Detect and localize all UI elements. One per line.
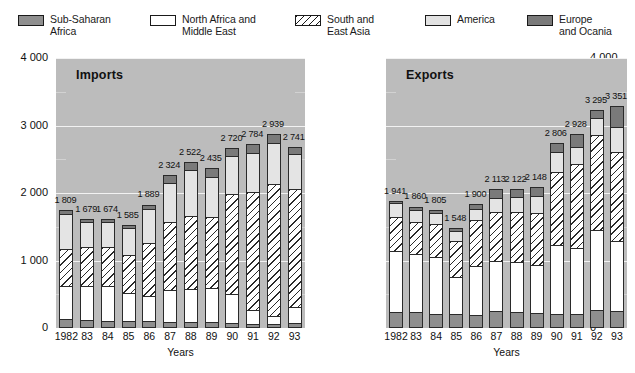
bar-segment-nam — [429, 257, 443, 315]
bar-segment-ame — [225, 156, 239, 194]
legend-item-europe-ocania: Europe and Ocania — [527, 14, 612, 37]
bar-total-label: 1 679 — [75, 204, 97, 214]
bar-exports-90 — [550, 143, 564, 328]
bar-segment-nam — [184, 289, 198, 323]
bar-total-label: 1 809 — [54, 195, 76, 205]
legend-swatch-south-east-asia — [295, 15, 321, 26]
bar-segment-sea — [59, 249, 73, 287]
bar-segment-sea — [389, 217, 403, 252]
gridline-major — [386, 58, 627, 59]
bar-segment-ssa — [489, 311, 503, 328]
bar-imports-91 — [246, 144, 260, 328]
bar-segment-nam — [163, 290, 177, 323]
bar-segment-nam — [610, 241, 624, 312]
bar-segment-eur — [610, 106, 624, 128]
bar-total-label: 1 585 — [117, 210, 139, 220]
bar-segment-ame — [550, 152, 564, 172]
bar-total-label: 2 113 — [484, 174, 505, 184]
bar-exports-1982 — [389, 201, 403, 328]
bar-imports-90 — [225, 148, 239, 328]
bar-segment-ame — [80, 222, 94, 248]
bar-segment-nam — [101, 286, 115, 322]
bar-total-label: 1 941 — [384, 186, 406, 196]
bar-segment-ssa — [80, 320, 94, 328]
bar-segment-sea — [246, 192, 260, 311]
bar-segment-sea — [122, 255, 136, 294]
bar-imports-92 — [267, 134, 281, 328]
bar-segment-nam — [288, 307, 302, 324]
legend-swatch-europe-ocania — [527, 15, 553, 26]
bar-total-label: 1 889 — [137, 189, 159, 199]
bar-segment-nam — [590, 230, 604, 311]
bar-segment-ssa — [389, 312, 403, 328]
bar-imports-89 — [205, 168, 219, 328]
bar-segment-ssa — [530, 313, 544, 328]
legend-label-south-east-asia: South and East Asia — [327, 14, 374, 37]
legend-swatch-north-africa-middle-east — [150, 15, 176, 26]
bar-segment-ssa — [101, 321, 115, 328]
bar-total-label: 2 435 — [200, 153, 222, 163]
gridline-minor — [386, 92, 396, 93]
legend-item-north-africa-middle-east: North Africa and Middle East — [150, 14, 256, 37]
bar-segment-ame — [122, 228, 136, 256]
bar-segment-sea — [510, 212, 524, 263]
bar-exports-83 — [409, 207, 423, 329]
bar-segment-sea — [469, 220, 483, 267]
bar-segment-nam — [409, 254, 423, 313]
bar-imports-85 — [122, 225, 136, 328]
bar-segment-sea — [225, 194, 239, 295]
bar-segment-nam — [122, 293, 136, 322]
bar-segment-ssa — [409, 312, 423, 328]
legend-swatch-america — [425, 15, 451, 26]
bar-segment-ssa — [225, 323, 239, 328]
legend-label-america: America — [457, 14, 495, 26]
bar-total-label: 1 900 — [464, 189, 486, 199]
bar-segment-sea — [288, 189, 302, 308]
bar-segment-ame — [510, 197, 524, 213]
bar-segment-sea — [570, 164, 584, 248]
bar-imports-84 — [101, 219, 115, 328]
bar-segment-ssa — [59, 319, 73, 328]
gridline-minor — [386, 159, 396, 160]
bar-segment-ame — [59, 214, 73, 251]
bar-total-label: 2 741 — [283, 132, 305, 142]
bar-segment-nam — [510, 262, 524, 313]
bar-segment-ame — [610, 127, 624, 153]
bar-segment-sea — [530, 213, 544, 266]
bar-segment-nam — [59, 286, 73, 320]
panel-title-imports: Imports — [76, 68, 123, 82]
bar-segment-nam — [570, 248, 584, 316]
bar-segment-ame — [101, 222, 115, 248]
bar-segment-sea — [409, 222, 423, 255]
bar-segment-nam — [225, 294, 239, 324]
y-tick-label: 4 000 — [0, 51, 48, 63]
bar-segment-ame — [489, 198, 503, 213]
x-tick-label: 93 — [603, 330, 631, 342]
bar-segment-sea — [184, 216, 198, 290]
bar-segment-ame — [184, 170, 198, 217]
x-axis-label-imports: Years — [56, 346, 305, 358]
bar-segment-nam — [246, 310, 260, 325]
bar-segment-ssa — [184, 322, 198, 328]
bar-segment-ssa — [246, 324, 260, 328]
bar-segment-nam — [142, 296, 156, 323]
bar-segment-sea — [205, 217, 219, 289]
bar-segment-ssa — [469, 315, 483, 329]
bar-segment-sea — [489, 212, 503, 262]
bar-imports-87 — [163, 175, 177, 328]
bar-exports-89 — [530, 187, 544, 328]
bar-segment-nam — [205, 288, 219, 323]
bar-imports-86 — [142, 205, 156, 328]
bar-segment-ssa — [288, 323, 302, 328]
legend-swatch-sub-saharan-africa — [18, 15, 44, 26]
bar-segment-sea — [429, 224, 443, 257]
gridline-minor — [56, 92, 66, 93]
y-tick-label: 1 000 — [0, 254, 48, 266]
bar-segment-ssa — [510, 312, 524, 328]
bar-segment-nam — [530, 265, 544, 314]
bar-segment-sea — [449, 241, 463, 278]
gridline-minor — [295, 92, 305, 93]
bar-total-label: 1 548 — [444, 213, 466, 223]
bar-segment-ssa — [429, 314, 443, 329]
bar-total-label: 2 928 — [565, 119, 587, 129]
